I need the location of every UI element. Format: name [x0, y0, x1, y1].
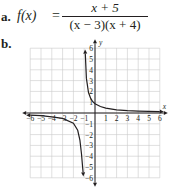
x-tick-label: 6 — [158, 114, 162, 123]
y-tick-label: −4 — [85, 152, 93, 161]
graph: xy−6−5−4−3−2−1123456−6−5−4−3−2−1123456 — [0, 0, 172, 187]
right-branch-curve — [85, 54, 160, 112]
y-tick-label: −3 — [85, 141, 93, 150]
y-tick-label: 6 — [89, 44, 93, 53]
y-tick-label: −5 — [85, 163, 93, 172]
y-tick-label: 3 — [89, 77, 93, 86]
y-axis-label: y — [98, 38, 103, 47]
x-axis-arrow-icon — [164, 111, 168, 115]
y-tick-label: 4 — [89, 66, 93, 75]
x-axis-label: x — [162, 102, 167, 111]
x-tick-label: 2 — [115, 114, 119, 123]
y-tick-label: −6 — [85, 174, 93, 183]
y-axis-arrow-icon — [93, 183, 97, 187]
x-tick-label: −4 — [48, 114, 56, 123]
x-tick-label: 4 — [136, 114, 140, 123]
y-axis-arrow-icon — [93, 39, 97, 43]
y-tick-label: −1 — [85, 120, 93, 129]
x-tick-label: 1 — [104, 114, 108, 123]
y-tick-label: 5 — [89, 55, 93, 64]
curve-arrow-icon — [83, 50, 87, 54]
x-tick-label: 5 — [147, 114, 151, 123]
x-tick-label: 3 — [126, 114, 130, 123]
y-tick-label: −2 — [85, 131, 93, 140]
